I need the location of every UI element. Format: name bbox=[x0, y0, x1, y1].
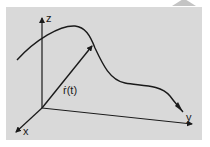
diagram-canvas bbox=[0, 0, 210, 147]
x-axis-label: x bbox=[23, 126, 29, 137]
y-axis bbox=[42, 108, 192, 124]
x-axis bbox=[16, 108, 42, 132]
vector-label: ṙ(t) bbox=[63, 85, 77, 96]
position-vector bbox=[42, 46, 92, 108]
z-axis-label: z bbox=[46, 13, 52, 24]
y-axis-label: y bbox=[186, 112, 192, 123]
